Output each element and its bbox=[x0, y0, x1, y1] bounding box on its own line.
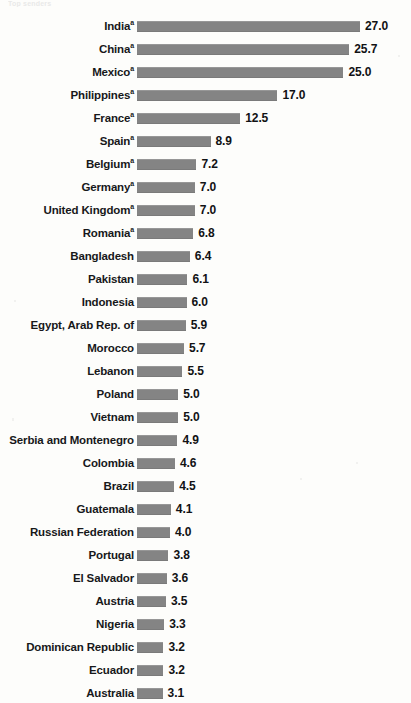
footnote-marker: a bbox=[130, 157, 134, 164]
bar-row: Morocco5.7 bbox=[0, 337, 411, 360]
bar-value-label: 5.0 bbox=[183, 406, 199, 429]
bar-row: Francea12.5 bbox=[0, 107, 411, 130]
bar bbox=[137, 228, 193, 239]
bar-value-label: 4.6 bbox=[180, 452, 196, 475]
bar-value-label: 17.0 bbox=[282, 84, 305, 107]
bar-track bbox=[137, 504, 171, 515]
bar-row-label: Vietnam bbox=[91, 406, 134, 429]
top-caption-fragment: Top senders bbox=[8, 0, 128, 7]
bar-row-label: Portugal bbox=[89, 544, 134, 567]
bar-track bbox=[137, 136, 211, 147]
bar bbox=[137, 44, 349, 55]
footnote-marker: a bbox=[130, 42, 134, 49]
bar-row: Germanya7.0 bbox=[0, 176, 411, 199]
bar-row-label: Ecuador bbox=[89, 659, 134, 682]
bar-row-label: Egypt, Arab Rep. of bbox=[31, 314, 134, 337]
bar-value-label: 7.2 bbox=[201, 153, 217, 176]
footnote-marker: a bbox=[130, 180, 134, 187]
bar-track bbox=[137, 343, 184, 354]
bar bbox=[137, 573, 167, 584]
bar-row-label: Serbia and Montenegro bbox=[9, 429, 134, 452]
bar-row: Bangladesh6.4 bbox=[0, 245, 411, 268]
bar bbox=[137, 343, 184, 354]
bar-row: Colombia4.6 bbox=[0, 452, 411, 475]
bar-value-label: 5.5 bbox=[187, 360, 203, 383]
bar-row: Nigeria3.3 bbox=[0, 613, 411, 636]
bar-track bbox=[137, 389, 178, 400]
bar-value-label: 27.0 bbox=[365, 15, 388, 38]
bar bbox=[137, 21, 360, 32]
bar bbox=[137, 320, 186, 331]
bar-value-label: 7.0 bbox=[200, 176, 216, 199]
bar-value-label: 5.9 bbox=[191, 314, 207, 337]
bar bbox=[137, 458, 175, 469]
bar-track bbox=[137, 320, 186, 331]
bar-row-label: El Salvador bbox=[73, 567, 134, 590]
bar-row-label: Lebanon bbox=[87, 360, 134, 383]
bar-row: Belgiuma7.2 bbox=[0, 153, 411, 176]
footnote-marker: a bbox=[130, 203, 134, 210]
bar-rows-container: Indiaa27.0Chinaa25.7Mexicoa25.0Philippin… bbox=[0, 15, 411, 703]
bar-row: Spaina8.9 bbox=[0, 130, 411, 153]
bar-track bbox=[137, 665, 163, 676]
bar bbox=[137, 274, 187, 285]
bar-row-label: Morocco bbox=[87, 337, 134, 360]
footnote-marker: a bbox=[130, 65, 134, 72]
footnote-marker: a bbox=[130, 88, 134, 95]
bar bbox=[137, 182, 195, 193]
bar-row: Guatemala4.1 bbox=[0, 498, 411, 521]
bar bbox=[137, 113, 240, 124]
bar-row: Romaniaa6.8 bbox=[0, 222, 411, 245]
bar-track bbox=[137, 228, 193, 239]
bar bbox=[137, 642, 163, 653]
bar-value-label: 6.0 bbox=[192, 291, 208, 314]
bar-row: Serbia and Montenegro4.9 bbox=[0, 429, 411, 452]
bar-row: Philippinesa17.0 bbox=[0, 84, 411, 107]
bar-track bbox=[137, 297, 187, 308]
bar-value-label: 5.7 bbox=[189, 337, 205, 360]
bar-row-label: Brazil bbox=[104, 475, 134, 498]
bar-track bbox=[137, 642, 163, 653]
bar bbox=[137, 527, 170, 538]
bar-value-label: 3.2 bbox=[168, 636, 184, 659]
bar-value-label: 6.8 bbox=[198, 222, 214, 245]
footnote-marker: a bbox=[130, 19, 134, 26]
bar-row: Chinaa25.7 bbox=[0, 38, 411, 61]
bar-value-label: 12.5 bbox=[245, 107, 268, 130]
bar bbox=[137, 366, 182, 377]
bar-value-label: 4.1 bbox=[176, 498, 192, 521]
bar-row-label: Bangladesh bbox=[70, 245, 134, 268]
bar-track bbox=[137, 458, 175, 469]
footnote-marker: a bbox=[130, 134, 134, 141]
bar-track bbox=[137, 182, 195, 193]
bar-row-label: United Kingdoma bbox=[44, 199, 134, 222]
bar-value-label: 25.7 bbox=[354, 38, 377, 61]
bar bbox=[137, 550, 168, 561]
bar-row-label: Poland bbox=[97, 383, 134, 406]
bar-track bbox=[137, 596, 166, 607]
bar-value-label: 3.8 bbox=[173, 544, 189, 567]
bar bbox=[137, 389, 178, 400]
bar-row-label: Austria bbox=[95, 590, 134, 613]
bar-track bbox=[137, 619, 164, 630]
bar-value-label: 8.9 bbox=[216, 130, 232, 153]
bar-value-label: 7.0 bbox=[200, 199, 216, 222]
bar-row-label: Russian Federation bbox=[30, 521, 134, 544]
bar-row-label: Colombia bbox=[83, 452, 134, 475]
bar bbox=[137, 67, 343, 78]
bar-track bbox=[137, 688, 163, 699]
bar-track bbox=[137, 159, 196, 170]
bar-value-label: 6.1 bbox=[192, 268, 208, 291]
bar bbox=[137, 481, 174, 492]
bar-row-label: Dominican Republic bbox=[26, 636, 134, 659]
bar-row: Pakistan6.1 bbox=[0, 268, 411, 291]
bar-row-label: Nigeria bbox=[96, 613, 134, 636]
bar bbox=[137, 619, 164, 630]
bar-track bbox=[137, 435, 177, 446]
bar-row: United Kingdoma7.0 bbox=[0, 199, 411, 222]
bar-track bbox=[137, 550, 168, 561]
bar-track bbox=[137, 44, 349, 55]
bar-row-label: Pakistan bbox=[88, 268, 134, 291]
bar-track bbox=[137, 205, 195, 216]
